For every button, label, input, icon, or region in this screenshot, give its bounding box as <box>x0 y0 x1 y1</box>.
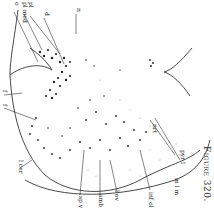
bottom-contour <box>25 140 210 194</box>
label-f-2: f <box>2 104 8 106</box>
label-pyr-l: pyr l <box>180 150 186 164</box>
label-o: o <box>14 2 20 6</box>
label-inf-ol: inf ol <box>148 192 154 207</box>
medulla-section-drawing <box>0 0 214 216</box>
label-nrt: nrt <box>152 124 158 133</box>
figure-caption: Figure 320. <box>202 146 212 202</box>
label-l-cer: l cer <box>18 160 24 174</box>
label-pl: pl <box>28 2 34 8</box>
label-sp-v: sp v <box>78 196 84 208</box>
label-d: d <box>44 12 50 16</box>
label-n: n <box>76 8 82 12</box>
section-outline <box>10 10 200 191</box>
label-m-lem: m l m <box>174 178 180 195</box>
median-notch <box>164 48 192 96</box>
label-amb: amb <box>98 194 104 207</box>
label-f-1: f <box>2 90 8 92</box>
label-l-ov: l ov <box>114 190 120 201</box>
